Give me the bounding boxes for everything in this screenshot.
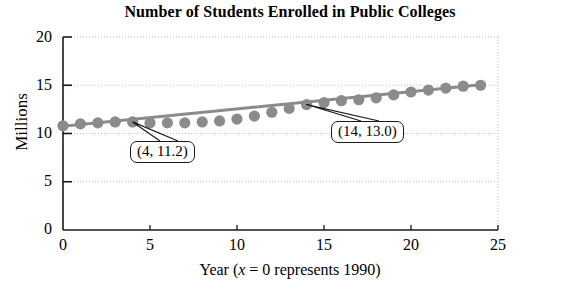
annotation-callout-1: (4, 11.2) <box>130 141 195 163</box>
plot-area <box>0 0 580 291</box>
chart-figure: Number of Students Enrolled in Public Co… <box>0 0 580 291</box>
gridlines <box>71 37 498 230</box>
annotation-callout-2: (14, 13.0) <box>331 121 404 143</box>
trend-line <box>63 85 481 126</box>
